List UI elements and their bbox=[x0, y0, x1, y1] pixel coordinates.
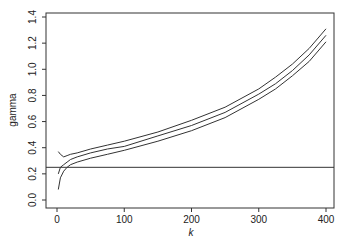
x-tick-label: 100 bbox=[116, 214, 133, 225]
y-axis: 0.00.20.40.60.81.01.21.4 bbox=[27, 10, 46, 207]
x-axis-label: k bbox=[189, 227, 195, 238]
series-line-estimate bbox=[58, 35, 326, 174]
y-tick-label: 0.0 bbox=[27, 193, 38, 207]
x-tick-label: 300 bbox=[250, 214, 267, 225]
x-tick-label: 400 bbox=[318, 214, 335, 225]
x-tick-label: 0 bbox=[54, 214, 60, 225]
y-axis-label: gamma bbox=[7, 93, 18, 127]
y-tick-label: 0.4 bbox=[27, 140, 38, 154]
y-tick-label: 0.2 bbox=[27, 166, 38, 180]
x-axis: 0100200300400 bbox=[54, 208, 335, 225]
y-tick-label: 0.6 bbox=[27, 114, 38, 128]
chart: 0.00.20.40.60.81.01.21.4 0100200300400 k… bbox=[0, 0, 349, 251]
y-tick-label: 0.8 bbox=[27, 88, 38, 102]
plot-frame bbox=[46, 13, 334, 208]
series-group bbox=[58, 29, 326, 190]
y-tick-label: 1.2 bbox=[27, 36, 38, 50]
y-tick-label: 1.4 bbox=[27, 10, 38, 24]
x-tick-label: 200 bbox=[183, 214, 200, 225]
series-line-upper bbox=[58, 29, 326, 157]
y-tick-label: 1.0 bbox=[27, 62, 38, 76]
